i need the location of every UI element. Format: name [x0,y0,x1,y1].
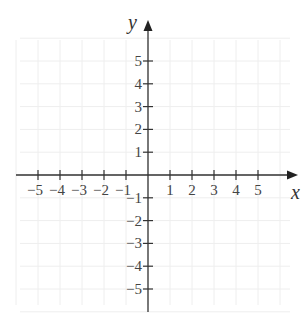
x-axis-arrow-icon [287,171,298,180]
y-tick-label: 5 [135,53,143,69]
y-tick-label: 2 [135,121,143,137]
x-tick-label: 4 [232,182,240,198]
y-axis-label: y [126,11,137,34]
y-tick-label: −3 [126,235,142,251]
x-tick-label: 1 [166,182,174,198]
x-axis-label: x [290,181,300,203]
y-axis-arrow-icon [144,20,153,31]
coordinate-plane: −5−4−3−2−112345−5−4−3−2−112345 x y [0,0,307,323]
x-tick-label: −4 [49,182,65,198]
x-tick-label: 2 [188,182,196,198]
y-tick-label: 1 [135,144,143,160]
x-tick-label: −5 [27,182,43,198]
x-tick-label: −3 [71,182,87,198]
axes [16,20,298,312]
x-tick-label: 5 [254,182,262,198]
x-tick-label: −2 [93,182,109,198]
y-tick-label: −1 [126,190,142,206]
y-tick-label: −5 [126,281,142,297]
y-tick-label: 3 [135,99,143,115]
y-tick-label: −4 [126,258,142,274]
y-tick-label: 4 [135,76,143,92]
x-tick-label: 3 [210,182,218,198]
y-tick-label: −2 [126,213,142,229]
